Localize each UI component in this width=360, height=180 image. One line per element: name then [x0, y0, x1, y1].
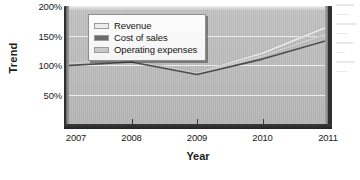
- plot-left-edge: [66, 6, 69, 124]
- x-axis-line: [64, 124, 332, 129]
- y-tick-label: 200%: [39, 1, 63, 12]
- x-tick-label: 2008: [121, 132, 141, 143]
- y-tick-label: 150%: [39, 30, 63, 41]
- x-tick-label: 2009: [187, 132, 207, 143]
- chart-figure: Trend 50%100%150%200% 200720082009201020…: [0, 0, 360, 180]
- x-axis-title: Year: [64, 150, 332, 162]
- legend-swatch-icon: [94, 35, 109, 41]
- y-tick-label: 50%: [44, 89, 62, 100]
- legend-item: Operating expenses: [94, 44, 197, 55]
- legend-swatch-icon: [94, 47, 109, 53]
- legend-item-label: Operating expenses: [114, 44, 197, 55]
- legend-item-label: Cost of sales: [114, 32, 168, 43]
- x-tick-label: 2010: [252, 132, 272, 143]
- page-margin-artifact: [336, 4, 358, 124]
- x-tick-mark: [197, 119, 198, 124]
- y-tick-label: 100%: [39, 60, 63, 71]
- legend-item: Revenue: [94, 20, 197, 31]
- x-axis-tick-labels: 20072008200920102011: [64, 132, 332, 146]
- x-tick-label: 2007: [66, 132, 86, 143]
- x-tick-mark: [132, 119, 133, 124]
- legend-swatch-icon: [94, 23, 109, 29]
- plot-right-edge: [325, 6, 328, 124]
- legend-item-label: Revenue: [114, 20, 151, 31]
- legend-item: Cost of sales: [94, 32, 197, 43]
- y-axis-tick-labels: 50%100%150%200%: [18, 8, 62, 126]
- chart-legend: RevenueCost of salesOperating expenses: [88, 14, 206, 61]
- x-tick-mark: [263, 119, 264, 124]
- x-tick-label: 2011: [318, 132, 338, 143]
